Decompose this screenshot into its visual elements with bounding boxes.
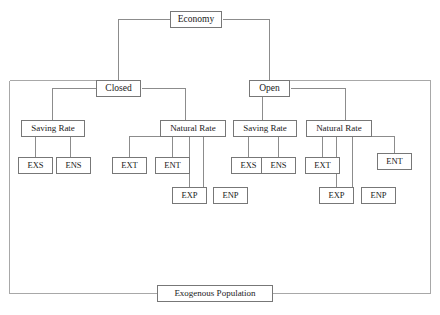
link-closed-right-bus <box>142 89 186 121</box>
node-closed-saving-rate[interactable]: Saving Rate <box>21 120 85 137</box>
node-economy[interactable]: Economy <box>170 11 222 28</box>
node-leaf-label: EXS <box>27 161 43 170</box>
node-leaf-open-natural-exp[interactable]: EXP <box>319 187 354 204</box>
node-leaf-label: EXS <box>240 161 256 170</box>
node-leaf-label: EXP <box>328 191 344 200</box>
node-leaf-closed-natural-ent[interactable]: ENT <box>155 157 190 174</box>
economy-taxonomy-diagram: Economy Closed Open Saving Rate Natural … <box>0 0 440 315</box>
node-leaf-label: EXT <box>314 161 331 170</box>
node-leaf-label: ENS <box>65 161 81 170</box>
node-leaf-open-natural-ent[interactable]: ENT <box>377 153 412 170</box>
link-open-right-bus <box>291 89 346 121</box>
node-leaf-label: ENP <box>222 191 238 200</box>
node-open-saving-rate-label: Saving Rate <box>243 124 287 133</box>
node-open-saving-rate[interactable]: Saving Rate <box>233 120 297 137</box>
node-leaf-label: ENT <box>164 161 181 170</box>
node-leaf-closed-natural-enp[interactable]: ENP <box>213 187 248 204</box>
link-economy-closed <box>119 20 171 81</box>
node-leaf-label: EXT <box>121 161 138 170</box>
node-leaf-open-natural-enp[interactable]: ENP <box>361 187 396 204</box>
node-leaf-label: ENT <box>386 157 403 166</box>
node-closed-saving-rate-label: Saving Rate <box>31 124 75 133</box>
node-closed[interactable]: Closed <box>96 80 141 97</box>
node-leaf-open-natural-ext[interactable]: EXT <box>305 157 340 174</box>
node-leaf-label: EXP <box>181 191 197 200</box>
node-open-natural-rate[interactable]: Natural Rate <box>306 120 372 137</box>
node-open-label: Open <box>259 84 280 94</box>
node-leaf-open-saving-ens[interactable]: ENS <box>261 157 296 174</box>
link-cnr-ext <box>130 137 161 158</box>
node-exogenous-population[interactable]: Exogenous Population <box>157 285 273 302</box>
node-leaf-label: ENS <box>270 161 286 170</box>
node-leaf-closed-saving-exs[interactable]: EXS <box>18 157 53 174</box>
node-leaf-closed-natural-ext[interactable]: EXT <box>112 157 147 174</box>
node-leaf-closed-natural-exp[interactable]: EXP <box>172 187 207 204</box>
node-open-natural-rate-label: Natural Rate <box>316 124 362 133</box>
node-open[interactable]: Open <box>249 80 290 97</box>
node-economy-label: Economy <box>178 15 214 25</box>
node-exogenous-population-label: Exogenous Population <box>174 289 255 298</box>
node-closed-natural-rate[interactable]: Natural Rate <box>160 120 226 137</box>
outer-frame-path <box>10 81 158 294</box>
link-economy-open <box>223 20 270 81</box>
node-closed-label: Closed <box>105 84 131 94</box>
link-onr-ent <box>372 137 395 154</box>
node-leaf-closed-saving-ens[interactable]: ENS <box>56 157 91 174</box>
node-leaf-label: ENP <box>370 191 386 200</box>
node-closed-natural-rate-label: Natural Rate <box>170 124 216 133</box>
link-closed-left-bus <box>53 89 97 121</box>
